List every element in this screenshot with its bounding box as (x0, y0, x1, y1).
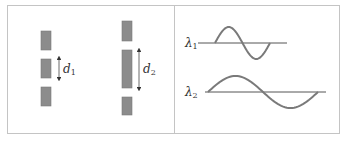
d2-subscript: 2 (151, 68, 156, 77)
slit-bar (122, 97, 132, 115)
lambda2-subscript: 2 (193, 91, 198, 100)
wavelength-panel (198, 27, 326, 108)
slit-bar (41, 59, 51, 78)
slit-bar (41, 87, 51, 106)
lambda2-label: λ2 (185, 86, 198, 100)
d1-label: d1 (63, 63, 76, 77)
slit-bar (41, 31, 51, 50)
lambda2-symbol: λ (185, 85, 193, 99)
figure-canvas (0, 0, 348, 146)
d2-label: d2 (143, 63, 156, 77)
slit-diagram-panel (41, 21, 139, 115)
lambda1-label: λ1 (185, 37, 198, 51)
lambda1-symbol: λ (185, 36, 193, 50)
slit-bar (122, 50, 132, 88)
d1-symbol: d (63, 62, 71, 76)
lambda1-subscript: 1 (193, 42, 198, 51)
d1-subscript: 1 (71, 68, 76, 77)
slit-bar (122, 21, 132, 41)
d2-symbol: d (143, 62, 151, 76)
